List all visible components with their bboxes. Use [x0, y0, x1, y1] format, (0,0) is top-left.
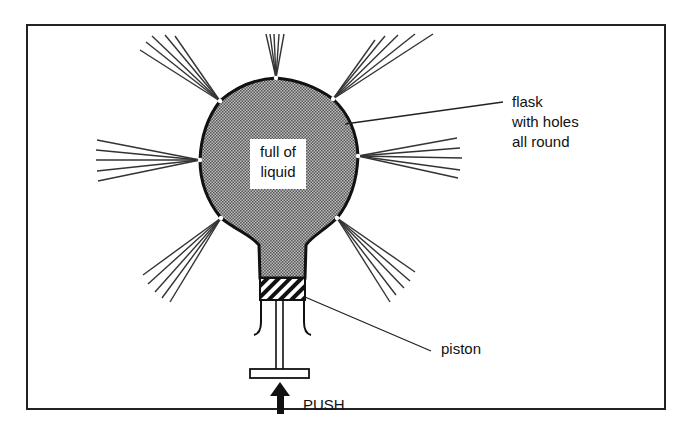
jet-top — [266, 34, 284, 78]
flask-label-line-2: with holes — [512, 112, 579, 132]
jet-left — [96, 140, 200, 181]
cylinder-left-wall — [254, 300, 261, 335]
liquid-label-line-1: full of — [250, 142, 306, 162]
cylinder-right-wall — [304, 300, 311, 335]
push-arrow-icon — [270, 382, 290, 414]
jet-top-left — [140, 35, 220, 101]
push-label: PUSH — [303, 395, 345, 415]
piston — [260, 278, 305, 300]
flask-label: flask with holes all round — [512, 92, 579, 152]
liquid-label: full of liquid — [250, 139, 306, 189]
plunger-handle — [250, 369, 309, 378]
flask-label-line-3: all round — [512, 132, 579, 152]
jet-top-right — [333, 34, 433, 99]
jet-bottom-left — [143, 218, 221, 302]
liquid-label-line-2: liquid — [250, 162, 306, 182]
flask-diagram — [0, 0, 700, 444]
flask-label-line-1: flask — [512, 92, 579, 112]
piston-leader-line — [305, 297, 431, 351]
flask-leader-line — [345, 102, 503, 124]
jet-bottom-right — [337, 218, 415, 302]
jet-right — [358, 138, 462, 178]
piston-label: piston — [441, 339, 481, 359]
